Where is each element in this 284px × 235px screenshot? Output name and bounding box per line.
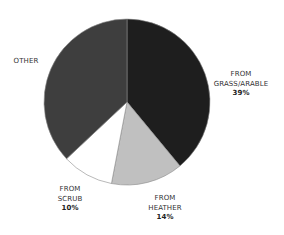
label-grass-arable: FROM GRASS/ARABLE 39% [205, 70, 277, 99]
label-heather-pct: 14% [140, 213, 190, 223]
label-other-line1: OTHER [10, 57, 42, 67]
label-heather: FROM HEATHER 14% [140, 194, 190, 223]
label-scrub: FROM SCRUB 10% [52, 185, 88, 214]
label-scrub-line2: SCRUB [52, 195, 88, 205]
label-heather-line2: HEATHER [140, 204, 190, 214]
label-heather-line1: FROM [140, 194, 190, 204]
label-grass-line1: FROM [205, 70, 277, 80]
label-grass-line2: GRASS/ARABLE [205, 80, 277, 90]
label-other: OTHER [10, 57, 42, 67]
label-grass-pct: 39% [205, 89, 277, 99]
label-scrub-pct: 10% [52, 204, 88, 214]
label-scrub-line1: FROM [52, 185, 88, 195]
